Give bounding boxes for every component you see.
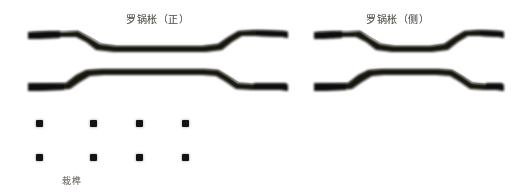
tenon-chip bbox=[36, 120, 43, 127]
humpback-stretcher-side-upper bbox=[312, 20, 506, 60]
tenon-chip bbox=[90, 154, 97, 161]
humpback-stretcher-front-upper bbox=[26, 20, 290, 60]
humpback-stretcher-side-lower bbox=[312, 62, 506, 102]
tenon-chip bbox=[182, 154, 189, 161]
tenon-chip bbox=[136, 120, 143, 127]
tenon-chip bbox=[182, 120, 189, 127]
tenon-row bbox=[30, 120, 196, 129]
inserted-tenon-grid bbox=[30, 120, 196, 168]
tenon-row bbox=[30, 154, 196, 163]
tenon-chip bbox=[136, 154, 143, 161]
tenon-chip bbox=[36, 154, 43, 161]
caption-inserted-tenon: 栽榫 bbox=[62, 174, 81, 187]
tenon-chip bbox=[90, 120, 97, 127]
figure-plate: 罗锅枨（正） 罗锅枨（侧） bbox=[0, 0, 516, 195]
humpback-stretcher-front-lower bbox=[26, 62, 290, 102]
